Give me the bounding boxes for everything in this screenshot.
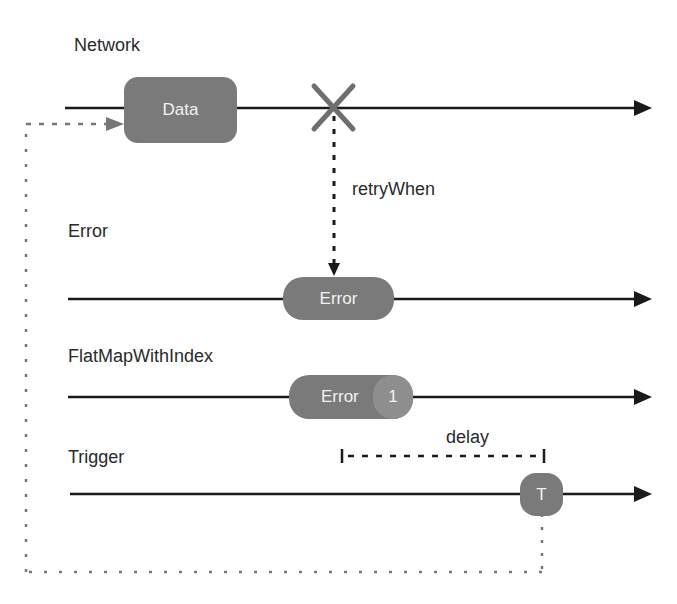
- flatmap-index-label: 1: [388, 387, 397, 407]
- arrow-head-icon: [634, 100, 652, 116]
- error-marble: Error: [283, 277, 394, 320]
- data-marble-label: Data: [163, 100, 199, 120]
- feedback-loop: [26, 117, 542, 572]
- retry-when-label: retryWhen: [352, 180, 435, 198]
- arrow-head-icon: [634, 389, 652, 405]
- flatmap-error-label: Error: [321, 387, 359, 407]
- trigger-marble: T: [520, 473, 563, 516]
- timeline-label-network: Network: [74, 36, 140, 54]
- delay-label: delay: [446, 428, 489, 446]
- trigger-marble-label: T: [536, 485, 546, 505]
- data-marble: Data: [124, 77, 237, 143]
- flatmap-index-badge: 1: [373, 375, 413, 419]
- flatmap-error-marble: Error 1: [289, 375, 413, 419]
- timeline-label-error: Error: [68, 222, 108, 240]
- retry-arrow: [328, 116, 340, 276]
- arrow-head-icon: [634, 291, 652, 307]
- error-marble-label: Error: [320, 289, 358, 309]
- timeline-label-flatmap: FlatMapWithIndex: [68, 347, 213, 365]
- delay-bracket: [342, 449, 544, 463]
- arrow-head-icon: [634, 486, 652, 502]
- trigger-timeline: [70, 486, 652, 502]
- timeline-label-trigger: Trigger: [68, 448, 124, 466]
